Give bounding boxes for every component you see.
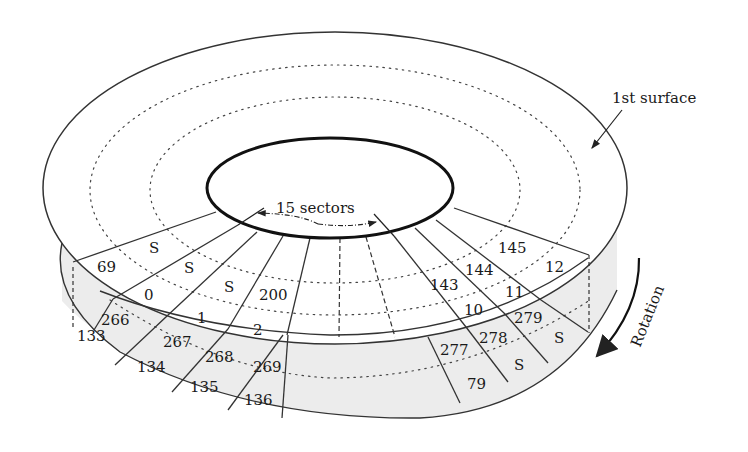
sector-label: 1 — [197, 309, 207, 327]
rim-sector-label: 135 — [190, 378, 219, 396]
sector-label: 200 — [259, 286, 288, 304]
rim-sector-label: 267 — [163, 333, 192, 351]
sector-label: 2 — [253, 321, 263, 339]
rim-sector-label: 269 — [253, 358, 282, 376]
rim-sector-label: 79 — [467, 375, 486, 393]
rim-sector-label: 136 — [244, 391, 273, 409]
sector-label: 12 — [545, 258, 564, 276]
sector-label: 144 — [465, 261, 494, 279]
rotation-label: Rotation — [627, 282, 668, 349]
sector-label: 69 — [97, 258, 116, 276]
surface-label: 1st surface — [612, 89, 696, 107]
rim-sector-label: 134 — [137, 358, 166, 376]
sector-label: 145 — [498, 239, 527, 257]
rim-sector-label: 279 — [514, 309, 543, 327]
sector-label: 11 — [505, 283, 524, 301]
rim-sector-label: S — [514, 356, 524, 374]
sectors-label: 15 sectors — [276, 199, 355, 217]
rim-sector-label: 278 — [479, 329, 508, 347]
sector-label: 10 — [464, 301, 483, 319]
sector-label: 0 — [144, 286, 154, 304]
sector-label: S — [224, 278, 234, 296]
sector-label: 143 — [430, 276, 459, 294]
rim-sector-label: 277 — [440, 341, 469, 359]
rim-sector-label: S — [554, 329, 564, 347]
rim-sector-label: 133 — [77, 327, 106, 345]
disk-spindle-hole — [207, 138, 453, 238]
sector-label: S — [184, 259, 194, 277]
rim-sector-label: 268 — [205, 348, 234, 366]
disk-diagram: 15 sectors 1st surface Rotation S 69 S 0… — [0, 0, 748, 452]
sector-label: S — [149, 239, 159, 257]
